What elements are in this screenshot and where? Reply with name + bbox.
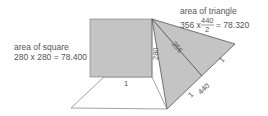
triangle-formula-suffix: = 78.320	[216, 20, 250, 30]
triangle-label-title: area of triangle	[180, 6, 237, 16]
base-quadrilateral	[71, 77, 167, 109]
square-label-formula: 280 x 280 = 78.400	[14, 52, 87, 62]
square	[90, 19, 152, 77]
square-label-title: area of square	[14, 42, 69, 52]
area-diagram: area of square 280 x 280 = 78.400 area o…	[0, 0, 268, 116]
square-bottom-label: 1	[124, 79, 128, 88]
triangle-fraction-numerator: 440	[201, 16, 214, 25]
triangle-formula-prefix: 356 x	[180, 20, 202, 30]
hypotenuse-label: 440	[196, 81, 211, 96]
square-side-label: 280	[151, 47, 160, 60]
triangle-fraction-denominator: 2	[205, 25, 209, 34]
hyp-lower-segment-label: 1	[186, 90, 195, 99]
